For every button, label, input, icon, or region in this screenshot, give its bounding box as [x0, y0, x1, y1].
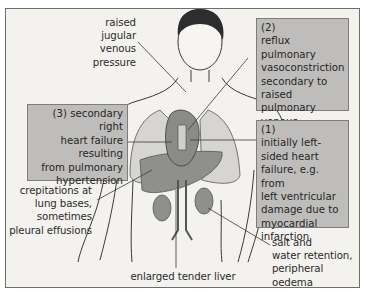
- callout-box-1: (1) initially left- sided heart failure,…: [256, 120, 349, 228]
- kidney-left-icon: [153, 195, 171, 221]
- label-crepitations: crepitations at lung bases, sometimes pl…: [8, 184, 92, 237]
- callout-box-2: (2) reflux pulmonary vasoconstriction se…: [256, 18, 349, 111]
- callout-box-3: (3) secondary right heart failure result…: [27, 104, 128, 181]
- label-salt-water-retention: salt and water retention, peripheral oed…: [272, 236, 357, 289]
- kidney-right-icon: [195, 188, 213, 214]
- label-jugular-venous-pressure: raised jugular venous pressure: [86, 16, 136, 69]
- label-enlarged-liver: enlarged tender liver: [128, 270, 238, 283]
